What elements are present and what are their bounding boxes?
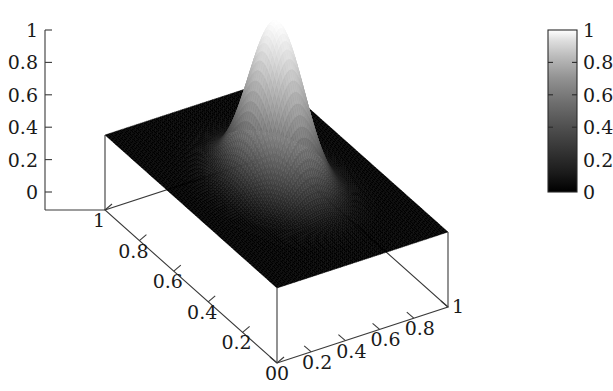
svg-text:0.2: 0.2	[8, 149, 38, 171]
svg-text:1: 1	[26, 19, 38, 41]
svg-text:0.8: 0.8	[405, 317, 435, 339]
svg-text:1: 1	[93, 209, 105, 231]
svg-text:0.6: 0.6	[583, 84, 613, 106]
svg-text:0.8: 0.8	[583, 51, 613, 73]
svg-text:0.4: 0.4	[336, 340, 366, 362]
svg-text:0.6: 0.6	[153, 270, 183, 292]
svg-text:0.8: 0.8	[8, 51, 38, 73]
svg-text:0.4: 0.4	[187, 301, 217, 323]
svg-text:0.8: 0.8	[118, 240, 148, 262]
svg-text:0.2: 0.2	[302, 351, 332, 373]
svg-text:0: 0	[277, 362, 289, 384]
svg-text:0.4: 0.4	[8, 116, 38, 138]
surface-plot-figure: 10.80.60.40.2010.80.60.40.2000.20.40.60.…	[0, 0, 613, 391]
svg-text:0.4: 0.4	[583, 116, 613, 138]
colorbar: 00.20.40.60.81	[548, 19, 613, 203]
svg-text:0: 0	[265, 362, 277, 384]
svg-text:0.6: 0.6	[8, 84, 38, 106]
plot-canvas: 10.80.60.40.2010.80.60.40.2000.20.40.60.…	[0, 0, 613, 391]
z-axis	[45, 30, 105, 210]
svg-text:0: 0	[583, 181, 595, 203]
svg-text:0.6: 0.6	[370, 328, 400, 350]
svg-text:0.2: 0.2	[221, 331, 251, 353]
svg-text:0.2: 0.2	[583, 149, 613, 171]
svg-text:1: 1	[583, 19, 595, 41]
svg-text:0: 0	[26, 181, 38, 203]
svg-text:1: 1	[452, 295, 464, 317]
